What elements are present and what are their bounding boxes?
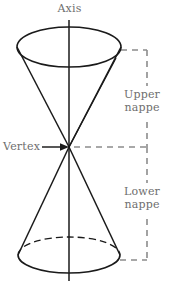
lower-nappe-label-line2: nappe [111,199,173,212]
axis-label: Axis [0,3,139,16]
upper-slant-inner-right [69,58,116,147]
vertex-arrow [42,143,69,151]
lower-nappe-label-line1: Lower [111,186,173,199]
upper-nappe-label-line1: Upper [111,89,173,102]
upper-nappe-label: Upper nappe [111,89,173,114]
vertex-label: Vertex [3,141,40,154]
cone-figure: Axis Vertex Upper nappe Lower nappe [0,0,179,285]
upper-slant-left [17,47,69,147]
lower-nappe-label: Lower nappe [111,186,173,211]
lower-slant-left [18,147,69,255]
upper-nappe-label-line2: nappe [111,102,173,115]
